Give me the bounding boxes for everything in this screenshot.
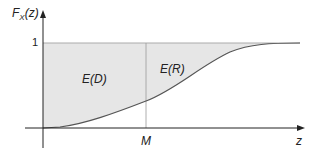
y-axis-label: FX(z) [12, 6, 39, 22]
x-axis-label: z [296, 134, 302, 148]
region-ed-label: E(D) [82, 72, 107, 86]
region-er-label: E(R) [160, 62, 185, 76]
cdf-diagram [0, 0, 316, 158]
x-tick-m: M [141, 134, 151, 148]
y-axis-arrow-icon [40, 10, 46, 18]
y-tick-1: 1 [32, 36, 38, 48]
x-axis-arrow-icon [297, 125, 305, 131]
